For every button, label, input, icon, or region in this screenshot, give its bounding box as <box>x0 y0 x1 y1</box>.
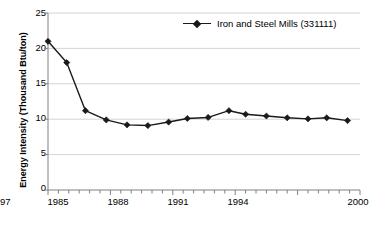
chart-container: Energy Intensity (Thousand Btu/ton) 25 2… <box>0 0 387 225</box>
x-axis-ticks <box>48 190 360 195</box>
plot-area <box>0 0 387 225</box>
gridlines <box>48 13 360 155</box>
axis-lines <box>48 13 360 190</box>
